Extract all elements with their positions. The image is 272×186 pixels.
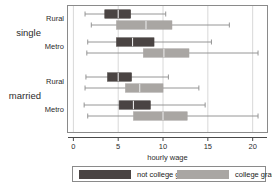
x-tick-label-20: 20: [248, 142, 256, 151]
x-axis: [67, 137, 268, 145]
x-tick-label-15: 15: [204, 142, 212, 151]
x-tick-label-5: 5: [116, 142, 120, 151]
x-tick-label-0: 0: [71, 142, 75, 151]
boxplot-canvas: [68, 6, 267, 132]
x-tick-label-10: 10: [159, 142, 167, 151]
legend-label-college-grad: college grad: [235, 170, 272, 179]
category-label-rural-single: Rural: [46, 14, 64, 23]
category-label-metro-single: Metro: [45, 42, 64, 51]
category-label-rural-married: Rural: [46, 77, 64, 86]
category-label-metro-married: Metro: [45, 105, 64, 114]
group-label-married: married: [9, 90, 41, 101]
boxplot-figure: single married Rural Metro Rural Metro 0…: [0, 0, 272, 186]
legend: not college grad college grad: [72, 166, 266, 182]
plot-area: [67, 5, 268, 133]
group-label-single: single: [16, 27, 41, 38]
legend-swatch-college-grad: [177, 170, 229, 179]
x-axis-title: hourly wage: [147, 153, 187, 162]
legend-swatch-not-college-grad: [79, 170, 131, 179]
